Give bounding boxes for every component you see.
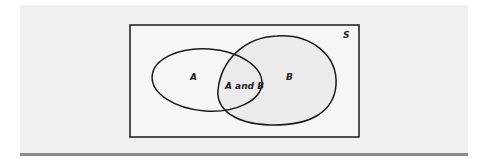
universe-label: S [343,30,349,40]
intersection-label: A and B [224,81,264,91]
venn-diagram-figure: S A B A and B [0,0,487,166]
set-b-label: B [286,72,293,82]
bottom-rule [20,153,468,156]
set-a-label: A [189,72,197,82]
venn-diagram: S A B A and B [0,0,487,166]
